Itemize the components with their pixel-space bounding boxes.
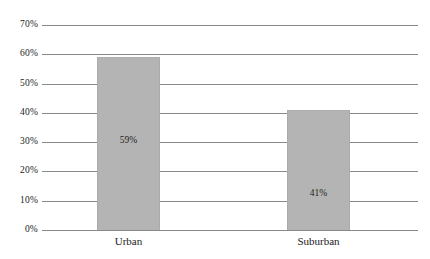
y-axis-tick-label: 30%: [0, 137, 38, 147]
bar-value-label: 59%: [98, 136, 159, 146]
bar-suburban[interactable]: 41%: [287, 110, 350, 230]
gridline: [42, 230, 418, 231]
plot-area: 59%41%: [42, 25, 418, 230]
y-axis-tick-label: 0%: [0, 225, 38, 235]
x-axis-category-label-urban: Urban: [69, 236, 189, 247]
bar-chart: 0%10%20%30%40%50%60%70% 59%41% UrbanSubu…: [0, 0, 430, 259]
y-axis-tick-label: 10%: [0, 196, 38, 206]
y-axis-tick-label: 20%: [0, 167, 38, 177]
y-axis-tick-label: 40%: [0, 108, 38, 118]
gridline: [42, 25, 418, 26]
x-axis-category-label-suburban: Suburban: [259, 236, 379, 247]
y-axis-tick-label: 70%: [0, 20, 38, 30]
gridline: [42, 54, 418, 55]
bar-value-label: 41%: [288, 189, 349, 199]
bar-urban[interactable]: 59%: [97, 57, 160, 230]
y-axis-tick-label: 60%: [0, 50, 38, 60]
y-axis-tick-label: 50%: [0, 79, 38, 89]
